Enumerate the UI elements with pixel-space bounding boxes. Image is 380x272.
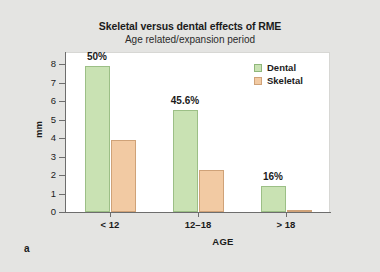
legend-item-label: Dental: [267, 63, 296, 73]
chart-title: Skeletal versus dental effects of RME: [0, 20, 380, 33]
y-axis-tick-label: 1: [16, 189, 56, 198]
chart-subtitle: Age related/expansion period: [0, 33, 380, 46]
figure-letter: a: [24, 243, 30, 254]
y-axis-tick-label: 0: [16, 207, 56, 216]
x-axis-title: AGE: [0, 236, 380, 247]
y-axis-tick: [59, 64, 65, 65]
y-axis-tick: [59, 101, 65, 102]
legend-item-label: Skeletal: [267, 76, 303, 86]
bar-skeletal-2: [287, 210, 312, 212]
chart-title-block: Skeletal versus dental effects of RME Ag…: [0, 20, 380, 46]
y-axis-tick: [59, 83, 65, 84]
x-axis-tick: [110, 213, 111, 217]
y-axis-tick: [59, 194, 65, 195]
legend-swatch-icon: [254, 64, 262, 72]
bar-value-label: 50%: [52, 51, 142, 62]
legend-item: Dental: [254, 62, 303, 73]
legend-item: Skeletal: [254, 75, 303, 86]
bar-value-label: 16%: [228, 171, 318, 182]
bar-dental-1: [173, 110, 198, 212]
y-axis-tick-label: 6: [16, 96, 56, 105]
x-axis-tick-label: < 12: [70, 219, 150, 230]
bar-dental-0: [85, 66, 110, 212]
y-axis-line: [65, 52, 66, 213]
x-axis-tick: [198, 213, 199, 217]
bar-dental-2: [261, 186, 286, 212]
y-axis-tick: [59, 120, 65, 121]
y-axis-tick: [59, 175, 65, 176]
x-axis-tick-label: > 18: [246, 219, 326, 230]
bar-skeletal-0: [111, 140, 136, 212]
y-axis-tick: [59, 212, 65, 213]
y-axis-tick-label: 8: [16, 59, 56, 68]
chart-figure: Skeletal versus dental effects of RME Ag…: [0, 0, 380, 272]
chart-legend: DentalSkeletal: [254, 62, 303, 88]
y-axis-tick-label: 3: [16, 152, 56, 161]
y-axis-tick-label: 2: [16, 170, 56, 179]
y-axis-tick: [59, 157, 65, 158]
x-axis-line: [59, 212, 331, 213]
x-axis-tick-label: 12–18: [158, 219, 238, 230]
legend-swatch-icon: [254, 77, 262, 85]
y-axis-title: mm: [33, 121, 44, 138]
bar-skeletal-1: [199, 170, 224, 212]
x-axis-tick: [286, 213, 287, 217]
y-axis-tick-label: 7: [16, 78, 56, 87]
y-axis-tick: [59, 138, 65, 139]
bar-value-label: 45.6%: [140, 95, 230, 106]
